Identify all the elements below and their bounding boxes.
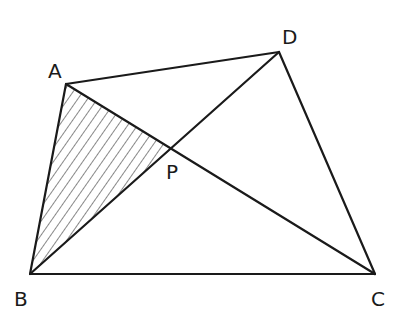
label-p: P <box>166 160 178 184</box>
label-c: C <box>371 287 385 311</box>
label-a: A <box>48 59 62 83</box>
segment-dc <box>279 52 375 274</box>
geometry-diagram: A D P B C <box>0 0 393 322</box>
label-b: B <box>14 287 28 311</box>
label-d: D <box>282 25 297 49</box>
shaded-triangle-abp <box>30 84 171 274</box>
